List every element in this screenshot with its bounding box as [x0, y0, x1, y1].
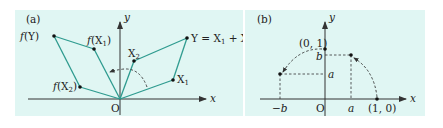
label-0-1: (0, 1)	[299, 37, 327, 49]
label-1-0: (1, 0)	[368, 102, 396, 114]
panel-a-label: (a)	[26, 13, 40, 25]
panel-a-diagram: (a) y x O f(Y) f(X1) f(X2) X2 X1 Y = X1 …	[15, 10, 243, 116]
panel-b-label: (b)	[257, 13, 272, 25]
arc-1-0-to-a-b	[354, 58, 377, 97]
y-axis-label: y	[123, 11, 131, 23]
panel-b-rotation: (b) y x O (0, 1) b a a −b (1, 0)	[245, 10, 425, 116]
point-f-X1	[92, 47, 96, 51]
label-y-a: a	[328, 68, 334, 80]
y-axis-label: y	[328, 11, 336, 23]
point-a-b	[349, 53, 353, 57]
x-axis-label: x	[410, 92, 416, 104]
label-x-neg-b: −b	[272, 102, 288, 114]
label-x-a: a	[348, 102, 354, 114]
panel-a-linear-transformation: (a) y x O f(Y) f(X1) f(X2) X2 X1 Y = X1 …	[15, 10, 243, 116]
x-axis-label: x	[210, 92, 216, 104]
origin-label: O	[316, 102, 325, 114]
label-f-X1: f(X1)	[86, 34, 111, 48]
rotation-arc	[110, 69, 147, 87]
label-Y-sum: Y = X1 + X2	[190, 32, 243, 46]
label-y-b: b	[316, 50, 323, 62]
label-f-X2: f(X2)	[52, 80, 77, 94]
point-f-Y	[52, 34, 56, 38]
point-f-X2	[78, 85, 82, 89]
label-f-Y: f(Y)	[19, 30, 39, 42]
panel-b-diagram: (b) y x O (0, 1) b a a −b (1, 0)	[245, 10, 425, 116]
label-X2: X2	[128, 47, 140, 61]
origin-label: O	[111, 102, 120, 114]
label-X1: X1	[177, 73, 189, 87]
point-X1	[171, 78, 175, 82]
point-1-0	[375, 97, 379, 101]
point-Y	[185, 36, 189, 40]
point-neg-b-a	[278, 72, 282, 76]
